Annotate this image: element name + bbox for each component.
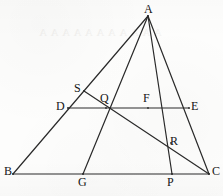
cevian-AP [148, 16, 172, 174]
vertex-point-c [208, 173, 210, 175]
vertex-point-b [12, 173, 14, 175]
vertex-label-b: B [4, 165, 12, 177]
vertex-label-q: Q [100, 92, 109, 104]
vertex-label-c: C [212, 165, 220, 177]
vertex-label-g: G [78, 176, 87, 188]
vertex-point-f [147, 107, 149, 109]
vertex-label-p: P [167, 176, 174, 188]
vertex-point-s [83, 90, 85, 92]
vertex-label-a: A [144, 3, 153, 15]
vertex-label-d: D [56, 100, 65, 112]
vertex-label-r: R [170, 135, 178, 147]
side-AC [148, 16, 209, 174]
vertex-layer [12, 15, 210, 175]
vertex-label-e: E [191, 100, 198, 112]
vertex-point-q [105, 107, 107, 109]
vertex-point-d [67, 107, 69, 109]
vertex-label-s: S [74, 82, 81, 94]
geometry-figure: A A A A A A A A A A A ABCDESQFRGP [0, 0, 223, 196]
cevian-AG [83, 16, 148, 174]
side-AB [13, 16, 148, 174]
geometry-canvas [0, 0, 223, 196]
vertex-label-f: F [143, 92, 150, 104]
vertex-point-e [188, 107, 190, 109]
segment-layer [13, 16, 209, 174]
